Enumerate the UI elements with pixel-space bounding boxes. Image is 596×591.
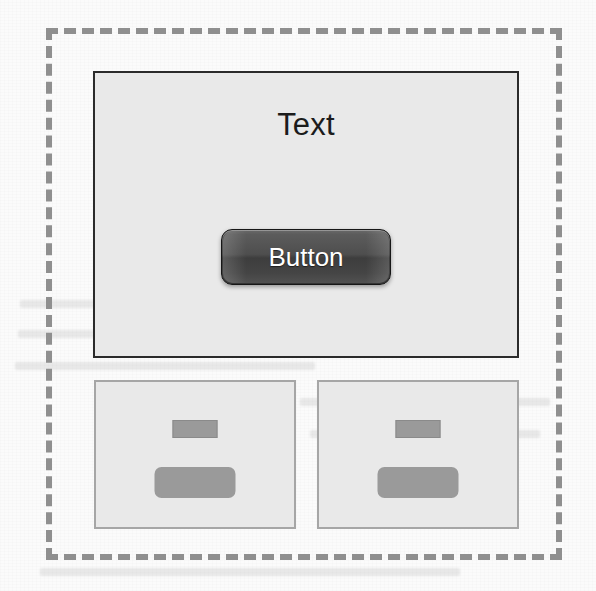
thumbnail-button-placeholder[interactable] — [378, 467, 459, 498]
thumbnail-panel-left[interactable] — [94, 380, 296, 529]
panel-text-label: Text — [95, 109, 517, 140]
thumbnail-text-placeholder — [173, 420, 218, 438]
thumbnail-panel-right[interactable] — [317, 380, 519, 529]
thumbnail-text-placeholder — [396, 420, 441, 438]
bleed-through-artifact — [40, 568, 460, 576]
main-preview-panel[interactable]: Text Button — [93, 71, 519, 358]
panel-button[interactable]: Button — [221, 229, 391, 285]
thumbnail-button-placeholder[interactable] — [155, 467, 236, 498]
page-background: Text Button — [0, 0, 596, 591]
panel-button-label: Button — [268, 242, 343, 273]
